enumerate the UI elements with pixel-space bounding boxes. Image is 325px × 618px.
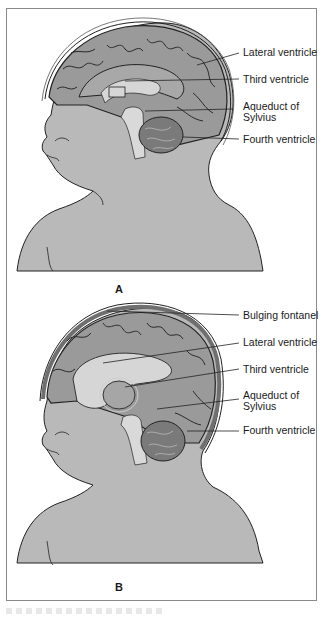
label-third-ventricle-b: Third ventricle: [243, 364, 309, 375]
figure-frame: Lateral ventricle Third ventricle Aquedu…: [6, 8, 317, 601]
panel-letter-b: B: [115, 581, 123, 593]
label-lateral-ventricle-b: Lateral ventricle: [243, 337, 317, 348]
label-bulging-fontanel-b: Bulging fontanel: [243, 310, 318, 321]
label-third-ventricle-a: Third ventricle: [243, 74, 309, 85]
label-fourth-ventricle-b: Fourth ventricle: [243, 425, 315, 436]
label-aqueduct-line2-a: Sylvius: [243, 112, 276, 123]
label-lateral-ventricle-a: Lateral ventricle: [243, 47, 317, 58]
panel-b-hydrocephalus: Bulging fontanel Lateral ventricle Third…: [7, 301, 318, 601]
label-aqueduct-line2-b: Sylvius: [243, 401, 276, 412]
cropped-caption: [6, 608, 166, 614]
panel-letter-a: A: [115, 283, 123, 295]
label-fourth-ventricle-a: Fourth ventricle: [243, 134, 315, 145]
panel-a-normal: Lateral ventricle Third ventricle Aquedu…: [7, 9, 318, 301]
